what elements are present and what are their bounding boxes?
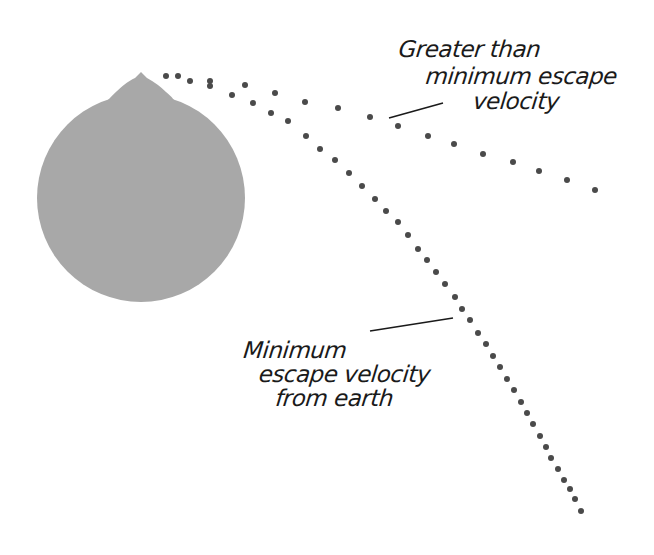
trajectory-dot <box>367 114 373 120</box>
trajectory-dot <box>536 168 542 174</box>
label-line: Greater than <box>397 36 621 62</box>
trajectory-dot <box>317 146 323 152</box>
trajectory-dot <box>497 364 503 370</box>
trajectory-dot <box>451 141 457 147</box>
trajectory-dot <box>175 73 181 79</box>
trajectory-dot <box>383 208 389 214</box>
label-greater-than-minimum-escape-velocity: Greater than minimum escape velocity <box>392 36 621 114</box>
trajectory-dot <box>524 410 530 416</box>
label-line: minimum escape <box>425 63 619 89</box>
trajectory-dot <box>530 421 536 427</box>
trajectory-dot <box>272 90 278 96</box>
trajectory-dot <box>415 246 421 252</box>
trajectory-dot <box>459 306 465 312</box>
label-line: Minimum <box>242 337 434 363</box>
trajectory-dot <box>442 281 448 287</box>
trajectory-dot <box>543 444 549 450</box>
trajectory-dot <box>372 196 378 202</box>
label-line: from earth <box>274 385 429 411</box>
trajectory-dot <box>187 78 193 84</box>
earth-circle <box>37 94 245 302</box>
earth <box>37 72 245 302</box>
trajectory-dot <box>332 157 338 163</box>
trajectory-dot <box>303 133 309 139</box>
trajectory-dot <box>207 83 213 89</box>
trajectory-dot <box>229 92 235 98</box>
trajectory-dot <box>395 219 401 225</box>
trajectory-dot <box>268 110 274 116</box>
trajectory-dot <box>483 341 489 347</box>
trajectory-dot <box>567 486 573 492</box>
trajectory-dot <box>578 508 584 514</box>
trajectory-dot <box>250 100 256 106</box>
trajectory-dot <box>555 466 561 472</box>
trajectory-dot <box>561 477 567 483</box>
trajectory-dot <box>572 496 578 502</box>
trajectory-dot <box>242 82 248 88</box>
trajectory-dot <box>452 294 458 300</box>
trajectory-dot <box>475 330 481 336</box>
trajectory-dot <box>548 455 554 461</box>
trajectory-dot <box>480 151 486 157</box>
trajectory-dot <box>285 118 291 124</box>
label-line: velocity <box>472 88 616 114</box>
label-line: escape velocity <box>258 361 432 387</box>
trajectory-dot <box>510 159 516 165</box>
trajectory-dot <box>564 177 570 183</box>
trajectory-dot <box>537 433 543 439</box>
trajectory-dot <box>511 387 517 393</box>
trajectory-dot <box>424 257 430 263</box>
trajectory-dot <box>405 232 411 238</box>
trajectory-dot <box>467 317 473 323</box>
trajectory-dot <box>163 73 169 79</box>
trajectory-minimum-escape <box>207 83 584 514</box>
trajectory-dot <box>518 399 524 405</box>
trajectory-dot <box>302 99 308 105</box>
label-minimum-escape-velocity-from-earth: Minimum escape velocity from earth <box>237 337 434 411</box>
trajectory-dot <box>359 183 365 189</box>
trajectory-dot <box>346 170 352 176</box>
trajectory-dot <box>433 269 439 275</box>
trajectory-dot <box>335 105 341 111</box>
leader-line-lower <box>370 318 453 331</box>
trajectory-dot <box>425 133 431 139</box>
trajectory-dot <box>395 123 401 129</box>
trajectory-dot <box>504 376 510 382</box>
trajectory-dot <box>490 353 496 359</box>
trajectory-dot <box>592 187 598 193</box>
